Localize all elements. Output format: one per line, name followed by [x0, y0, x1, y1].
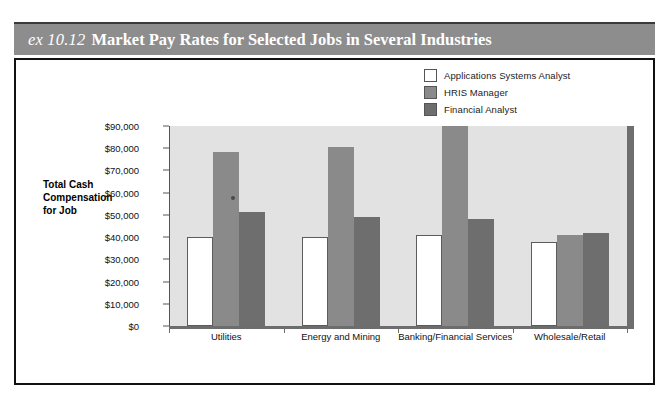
bar-group: [284, 126, 399, 326]
x-axis-label: Utilities: [169, 331, 284, 343]
y-tick-label: $20,000: [105, 276, 147, 287]
y-tick-label: $60,000: [105, 187, 147, 198]
exhibit-container: ex 10.12Market Pay Rates for Selected Jo…: [14, 22, 655, 385]
bar-group: [513, 126, 628, 326]
legend-label-applications-systems-analyst: Applications Systems Analyst: [444, 70, 570, 81]
print-speck-artifact: [231, 196, 235, 200]
x-axis-label: Wholesale/Retail: [513, 331, 628, 343]
legend-label-hris-manager: HRIS Manager: [444, 87, 508, 98]
plot-right-wall: [627, 126, 634, 326]
legend-swatch-financial-analyst: [424, 103, 437, 116]
bar-0: [302, 237, 328, 326]
x-axis-label: Banking/Financial Services: [398, 331, 513, 343]
exhibit-header-text: ex 10.12Market Pay Rates for Selected Jo…: [14, 30, 492, 50]
legend-item-applications-systems-analyst: Applications Systems Analyst: [424, 68, 570, 82]
legend-item-financial-analyst: Financial Analyst: [424, 102, 570, 116]
bar-0: [416, 235, 442, 326]
y-tick-label: $40,000: [105, 232, 147, 243]
x-axis-line: [169, 326, 634, 329]
y-tick-label: $30,000: [105, 254, 147, 265]
x-tick-mark: [627, 326, 628, 333]
y-tick-label: $50,000: [105, 209, 147, 220]
bar-groups: [169, 126, 627, 326]
bar-group: [169, 126, 284, 326]
legend-label-financial-analyst: Financial Analyst: [444, 104, 517, 115]
bar-1: [557, 235, 583, 326]
y-tick-label: $80,000: [105, 143, 147, 154]
bar-1: [328, 147, 354, 326]
y-tick-label: $90,000: [105, 121, 147, 132]
bar-0: [531, 242, 557, 326]
exhibit-title: Market Pay Rates for Selected Jobs in Se…: [92, 30, 492, 49]
legend-item-hris-manager: HRIS Manager: [424, 85, 570, 99]
bar-group: [398, 126, 513, 326]
bar-1: [442, 126, 468, 326]
legend-swatch-applications-systems-analyst: [424, 69, 437, 82]
exhibit-header: ex 10.12Market Pay Rates for Selected Jo…: [14, 22, 655, 55]
bar-2: [239, 212, 265, 326]
exhibit-number: ex 10.12: [28, 30, 86, 49]
x-axis-label: Energy and Mining: [284, 331, 399, 343]
y-tick-label: $70,000: [105, 165, 147, 176]
bar-2: [468, 219, 494, 326]
bar-2: [583, 233, 609, 326]
bar-1: [213, 152, 239, 326]
legend-swatch-hris-manager: [424, 86, 437, 99]
y-tick-label: $0: [128, 321, 147, 332]
x-axis-labels: UtilitiesEnergy and MiningBanking/Financ…: [169, 331, 627, 343]
y-tick-label: $10,000: [105, 298, 147, 309]
bar-2: [354, 217, 380, 326]
chart-legend: Applications Systems Analyst HRIS Manage…: [424, 68, 570, 116]
plot-wrapper: $0$10,000$20,000$30,000$40,000$50,000$60…: [147, 126, 634, 331]
bar-0: [187, 237, 213, 326]
